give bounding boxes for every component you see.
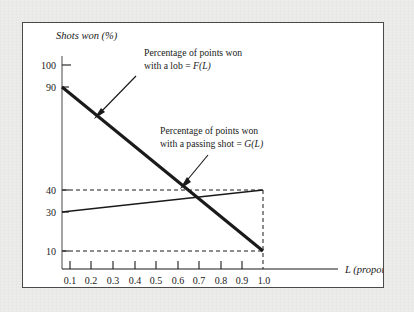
x-tick-label-0.5: 0.5 xyxy=(150,275,163,286)
x-tick-labels: 0.1 0.2 0.3 0.4 0.5 0.6 0.7 0.8 0.9 1.0 xyxy=(64,275,271,286)
x-tick-label-0.4: 0.4 xyxy=(129,275,142,286)
annotation-lob-function: F(L) xyxy=(192,60,211,72)
annotation-lob-line2-prefix: with a lob = xyxy=(144,60,193,71)
chart-canvas: Shots won (%) L (proportion of lobs) 100… xyxy=(23,23,383,287)
x-tick-label-0.9: 0.9 xyxy=(236,275,249,286)
annotation-lob: Percentage of points won with a lob = F(… xyxy=(144,47,242,72)
annotation-lob-line1: Percentage of points won xyxy=(144,47,242,58)
x-tick-label-0.3: 0.3 xyxy=(107,275,120,286)
y-tick-labels: 100 90 40 30 10 xyxy=(41,60,56,257)
y-tick-label-90: 90 xyxy=(46,82,56,93)
y-tick-label-30: 30 xyxy=(46,207,56,218)
annotation-passing-function: G(L) xyxy=(244,138,263,150)
arrow-line-lob xyxy=(98,76,136,115)
y-tick-label-10: 10 xyxy=(46,246,56,257)
x-tick-label-0.6: 0.6 xyxy=(172,275,185,286)
x-tick-label-0.2: 0.2 xyxy=(85,275,98,286)
reference-lines xyxy=(62,190,263,269)
annotation-passing-line2: with a passing shot = G(L) xyxy=(160,138,263,150)
x-tick-label-0.1: 0.1 xyxy=(64,275,77,286)
x-tick-label-0.7: 0.7 xyxy=(193,275,206,286)
x-axis-title: L (proportion of lobs) xyxy=(344,264,383,276)
y-tick-label-100: 100 xyxy=(41,60,56,71)
series-line-G xyxy=(62,190,263,212)
y-axis-title: Shots won (%) xyxy=(56,30,118,42)
y-tick-label-40: 40 xyxy=(46,185,56,196)
data-series xyxy=(62,87,263,251)
x-tick-label-0.8: 0.8 xyxy=(215,275,228,286)
x-tick-label-1.0: 1.0 xyxy=(258,275,271,286)
annotation-passing-line1: Percentage of points won xyxy=(160,125,258,136)
axes xyxy=(62,56,338,269)
annotation-passing: Percentage of points won with a passing … xyxy=(160,125,263,150)
figure-panel: Shots won (%) L (proportion of lobs) 100… xyxy=(22,22,384,288)
series-line-F xyxy=(62,87,263,251)
x-tick-marks xyxy=(70,261,242,269)
annotation-lob-line2: with a lob = F(L) xyxy=(144,60,211,72)
annotation-passing-line2-prefix: with a passing shot = xyxy=(160,138,244,149)
